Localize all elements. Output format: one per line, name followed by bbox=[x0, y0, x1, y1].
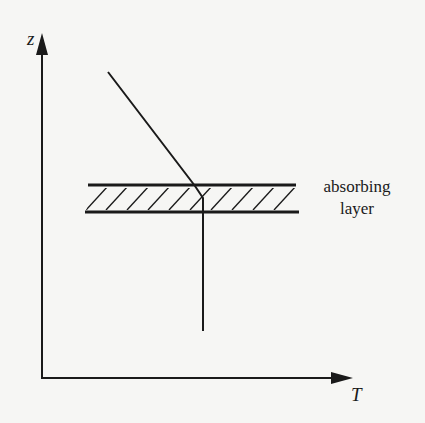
layer-label-line1: absorbing bbox=[310, 176, 404, 198]
z-axis-label: z bbox=[27, 28, 34, 50]
absorbing-layer-label: absorbing layer bbox=[310, 176, 404, 220]
t-axis bbox=[41, 372, 353, 384]
layer-label-line2: layer bbox=[310, 198, 404, 220]
z-axis-arrow-icon bbox=[36, 33, 48, 55]
t-axis-label: T bbox=[351, 384, 362, 406]
absorbing-layer bbox=[85, 185, 299, 212]
diagram-canvas: z T absorbing layer bbox=[0, 0, 425, 423]
t-axis-arrow-icon bbox=[331, 372, 353, 384]
z-axis bbox=[36, 33, 48, 378]
